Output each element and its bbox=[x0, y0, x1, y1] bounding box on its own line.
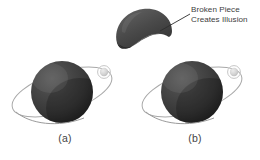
callout-line-1: Broken Piece bbox=[191, 5, 259, 15]
callout-line-2: Creates Illusion bbox=[191, 15, 259, 25]
callout-annotation: Broken Piece Creates Illusion bbox=[191, 5, 259, 24]
figure-illustration: Broken Piece Creates Illusion (a) (b) bbox=[0, 0, 260, 160]
panel-label-b: (b) bbox=[175, 132, 215, 144]
sphere-b-highlight bbox=[162, 63, 198, 93]
panel-a-group bbox=[6, 57, 117, 138]
panel-label-a: (a) bbox=[45, 132, 85, 144]
sphere-a-highlight bbox=[32, 63, 68, 93]
panel-b-group bbox=[136, 57, 247, 138]
moon-b bbox=[230, 68, 238, 76]
moon-a bbox=[100, 68, 108, 76]
